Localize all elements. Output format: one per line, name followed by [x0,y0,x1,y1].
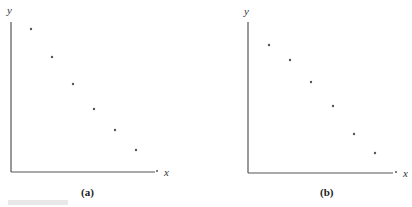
y-axis-label: y [6,4,12,16]
data-point [114,129,116,131]
panel-b: y x (b) [243,5,408,199]
x-axis-label: x [402,167,408,179]
figure: y x (a) y x (b) [0,0,412,207]
data-point [135,149,137,151]
axis-end-dot [395,171,397,173]
data-point [289,59,291,61]
panel-caption: (b) [320,186,334,199]
data-point [72,83,74,85]
data-point [268,44,270,46]
x-axis-label: x [163,166,169,178]
panel-caption: (a) [81,186,94,199]
faint-footer-text [8,200,68,205]
data-point [332,105,334,107]
panel-a: y x (a) [6,4,169,199]
data-point [51,56,53,58]
data-point [374,152,376,154]
y-axis-label: y [243,5,249,17]
data-point [310,81,312,83]
axis-end-dot [156,170,158,172]
data-point [30,28,32,30]
data-point [93,108,95,110]
data-points [30,28,137,151]
data-points [268,44,376,154]
data-point [353,133,355,135]
